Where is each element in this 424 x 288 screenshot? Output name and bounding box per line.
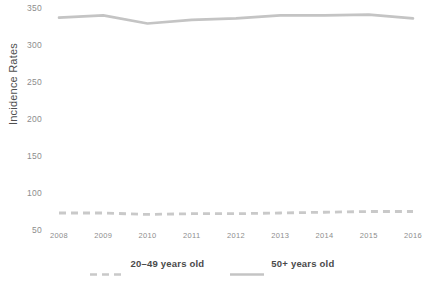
x-axis-tick-label: 2010 bbox=[139, 231, 157, 240]
x-axis-tick-label: 2015 bbox=[360, 231, 378, 240]
legend-item-label: 20–49 years old bbox=[131, 258, 205, 269]
x-axis-tick-label: 2013 bbox=[271, 231, 289, 240]
x-axis-tick-label: 2012 bbox=[227, 231, 245, 240]
y-axis-tick-label: 300 bbox=[27, 40, 42, 50]
y-axis-tick-label: 150 bbox=[27, 151, 42, 161]
legend-dashed-line-icon bbox=[90, 262, 124, 265]
legend-solid-line-icon bbox=[230, 262, 264, 265]
x-axis-tick-labels: 200820092010201120122013201420152016 bbox=[52, 231, 420, 245]
y-axis-tick-labels: 50100150200250300350 bbox=[0, 8, 48, 230]
legend-item-label: 50+ years old bbox=[271, 258, 334, 269]
plot-area bbox=[52, 8, 420, 230]
y-axis-tick-label: 100 bbox=[27, 188, 42, 198]
series-line-20-49 bbox=[59, 212, 413, 215]
x-axis-tick-label: 2016 bbox=[404, 231, 422, 240]
line-chart: Incidence Rates 50100150200250300350 200… bbox=[0, 0, 424, 288]
chart-legend: 20–49 years old50+ years old bbox=[0, 258, 424, 269]
y-axis-tick-label: 200 bbox=[27, 114, 42, 124]
x-axis-tick-label: 2009 bbox=[94, 231, 112, 240]
legend-item[interactable]: 20–49 years old bbox=[90, 258, 205, 269]
legend-item[interactable]: 50+ years old bbox=[230, 258, 334, 269]
y-axis-tick-label: 250 bbox=[27, 77, 42, 87]
x-axis-tick-label: 2008 bbox=[50, 231, 68, 240]
series-line-50plus bbox=[59, 15, 413, 24]
x-axis-tick-label: 2014 bbox=[316, 231, 334, 240]
y-axis-tick-label: 350 bbox=[27, 3, 42, 13]
series-lines bbox=[52, 8, 420, 230]
x-axis-tick-label: 2011 bbox=[183, 231, 200, 240]
y-axis-tick-label: 50 bbox=[32, 225, 42, 235]
